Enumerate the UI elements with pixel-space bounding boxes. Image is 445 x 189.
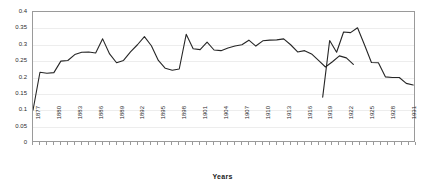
x-axis-tick-mark xyxy=(408,142,409,145)
x-axis-tick-mark xyxy=(325,142,326,145)
x-axis-tick-mark xyxy=(401,142,402,145)
line-chart: 0.40.350.30.250.20.150.10.050 1877188018… xyxy=(0,0,445,189)
x-axis-tick-mark xyxy=(366,142,367,145)
x-axis-tick-mark xyxy=(380,142,381,145)
x-axis-tick-mark xyxy=(262,142,263,145)
x-axis-tick-mark xyxy=(255,142,256,145)
x-axis-tick-mark xyxy=(297,142,298,145)
x-axis-tick-mark xyxy=(387,142,388,145)
x-axis-tick-label: 1895 xyxy=(160,106,167,146)
x-axis-tick-mark xyxy=(338,142,339,145)
y-axis-tick-label: 0.05 xyxy=(0,123,27,129)
y-axis-tick-label: 0.25 xyxy=(0,57,27,63)
x-axis-tick-mark xyxy=(192,142,193,145)
y-axis-tick-label: 0 xyxy=(0,139,27,145)
x-axis-tick-mark xyxy=(178,142,179,145)
x-axis-tick-label: 1901 xyxy=(202,106,209,146)
x-axis-tick-mark xyxy=(213,142,214,145)
x-axis-tick-mark xyxy=(283,142,284,145)
x-axis-tick-mark xyxy=(199,142,200,145)
x-axis-tick-mark xyxy=(53,142,54,145)
x-axis-tick-mark xyxy=(220,142,221,145)
x-axis-tick-mark xyxy=(318,142,319,145)
x-axis-tick-mark xyxy=(359,142,360,145)
x-axis-tick-mark xyxy=(171,142,172,145)
x-axis-tick-label: 1904 xyxy=(223,106,230,146)
x-axis-tick-mark xyxy=(345,142,346,145)
x-axis-tick-label: 1877 xyxy=(35,106,42,146)
y-axis-tick-label: 0.35 xyxy=(0,24,27,30)
x-axis-tick-mark xyxy=(74,142,75,145)
x-axis-tick-mark xyxy=(130,142,131,145)
x-axis-tick-label: 1883 xyxy=(77,106,84,146)
series-line-post-war xyxy=(323,28,414,97)
y-axis-tick-label: 0.3 xyxy=(0,41,27,47)
x-axis-tick-label: 1910 xyxy=(265,106,272,146)
x-axis-tick-mark xyxy=(109,142,110,145)
x-axis-tick-mark xyxy=(95,142,96,145)
x-axis-tick-label: 1907 xyxy=(244,106,251,146)
x-axis-tick-label: 1919 xyxy=(327,106,334,146)
series-line-pre-war xyxy=(33,34,353,110)
x-axis-tick-mark xyxy=(67,142,68,145)
x-axis-tick-mark xyxy=(46,142,47,145)
x-axis-title: Years xyxy=(0,173,445,180)
y-axis-tick-label: 0.1 xyxy=(0,106,27,112)
x-axis-tick-label: 1892 xyxy=(139,106,146,146)
x-axis-tick-label: 1925 xyxy=(369,106,376,146)
x-axis-tick-mark xyxy=(234,142,235,145)
x-axis-tick-label: 1889 xyxy=(119,106,126,146)
x-axis-tick-mark xyxy=(276,142,277,145)
x-axis-tick-mark xyxy=(157,142,158,145)
x-axis-tick-label: 1916 xyxy=(307,106,314,146)
x-axis-tick-label: 1898 xyxy=(181,106,188,146)
x-axis-tick-label: 1913 xyxy=(286,106,293,146)
chart-title-remnant xyxy=(0,0,445,6)
y-axis-tick-label: 0.15 xyxy=(0,90,27,96)
x-axis-tick-mark xyxy=(150,142,151,145)
x-axis-tick-mark xyxy=(88,142,89,145)
x-axis-tick-mark xyxy=(304,142,305,145)
x-axis-tick-label: 1922 xyxy=(348,106,355,146)
x-axis-tick-label: 1880 xyxy=(56,106,63,146)
y-axis-tick-label: 0.4 xyxy=(0,8,27,14)
x-axis-tick-mark xyxy=(32,142,33,145)
y-axis-tick-label: 0.2 xyxy=(0,74,27,80)
x-axis-tick-label: 1928 xyxy=(390,106,397,146)
x-axis-tick-label: 1886 xyxy=(98,106,105,146)
x-axis-tick-mark xyxy=(116,142,117,145)
x-axis-tick-label: 1931 xyxy=(411,106,418,146)
x-axis-tick-mark xyxy=(241,142,242,145)
x-axis-tick-mark xyxy=(137,142,138,145)
